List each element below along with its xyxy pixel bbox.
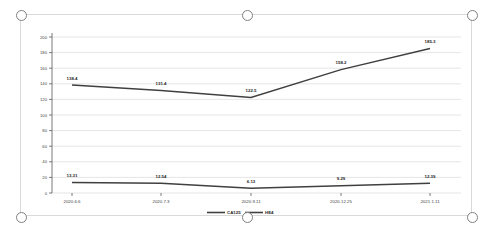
line-chart-svg: 200 180 160 140 120 100 80 60 40 20 0 — [21, 15, 473, 217]
y-tick-label: 100 — [40, 113, 48, 118]
data-point-label: 185.3 — [425, 39, 437, 44]
data-point-label: 13.31 — [67, 173, 79, 178]
data-point-label: 131.4 — [156, 81, 168, 86]
selection-handle-top-center[interactable] — [242, 10, 253, 21]
y-tick-label: 180 — [40, 50, 48, 55]
y-tick-label: 120 — [40, 97, 48, 102]
y-tick-label: 40 — [42, 159, 47, 164]
y-tick-label: 140 — [40, 81, 48, 86]
selection-handle-bottom-center[interactable] — [242, 212, 253, 223]
selection-handle-bottom-right[interactable] — [467, 212, 478, 223]
data-point-label: 158.2 — [336, 60, 348, 65]
y-tick-label: 60 — [42, 144, 47, 149]
y-tick-label: 0 — [45, 191, 48, 196]
legend-label-he4: HE4 — [265, 210, 274, 215]
y-tick-label: 200 — [40, 35, 48, 40]
y-axis-tick-labels: 200 180 160 140 120 100 80 60 40 20 0 — [40, 35, 48, 196]
data-point-label: 12.54 — [156, 174, 168, 179]
series-he4-point-labels: 138.4 131.4 122.5 158.2 185.3 — [67, 39, 437, 93]
series-ca125-point-labels: 13.31 12.54 6.13 9.29 12.39 — [67, 173, 437, 184]
data-point-label: 12.39 — [425, 174, 437, 179]
y-axis — [49, 33, 52, 193]
legend-label-ca125: CA125 — [227, 210, 241, 215]
y-tick-label: 80 — [42, 128, 47, 133]
x-axis — [72, 193, 430, 196]
data-point-label: 138.4 — [67, 76, 79, 81]
y-tick-label: 160 — [40, 66, 48, 71]
gridlines — [52, 37, 461, 193]
chart-object[interactable]: 200 180 160 140 120 100 80 60 40 20 0 — [20, 14, 472, 216]
selection-handle-bottom-left[interactable] — [16, 212, 27, 223]
data-point-label: 122.5 — [246, 88, 258, 93]
selection-handle-top-left[interactable] — [16, 10, 27, 21]
x-tick-label: 2020.6.6 — [63, 199, 81, 204]
selection-handle-top-right[interactable] — [467, 10, 478, 21]
data-point-label: 9.29 — [337, 176, 346, 181]
chart-legend: CA125 HE4 — [207, 210, 274, 215]
x-tick-label: 2020.12.25 — [330, 199, 353, 204]
x-tick-label: 2021.1.11 — [420, 199, 440, 204]
y-tick-label: 20 — [42, 175, 47, 180]
x-tick-label: 2020.9.11 — [241, 199, 261, 204]
chart-plot-area: 200 180 160 140 120 100 80 60 40 20 0 — [21, 15, 471, 215]
x-axis-tick-labels: 2020.6.6 2020.7.3 2020.9.11 2020.12.25 2… — [63, 199, 440, 204]
x-tick-label: 2020.7.3 — [152, 199, 170, 204]
data-point-label: 6.13 — [247, 179, 256, 184]
